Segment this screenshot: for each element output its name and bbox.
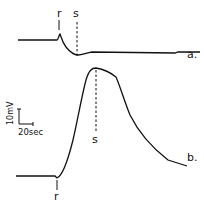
scale-bar: 10mV 20sec <box>6 101 43 137</box>
scale-x-label: 20sec <box>18 127 43 137</box>
a-s-label: s <box>73 7 79 20</box>
b-r-label: r <box>54 190 59 203</box>
a-series-label: a. <box>187 48 197 61</box>
trace-a: r s a. <box>18 7 200 61</box>
b-series-label: b. <box>187 151 197 164</box>
trace-b: s r b. <box>16 68 197 203</box>
a-r-label: r <box>57 7 62 20</box>
b-s-label: s <box>92 133 98 146</box>
chart: r s a. s r b. 10mV 20sec <box>0 0 204 212</box>
scale-y-label: 10mV <box>6 101 15 125</box>
